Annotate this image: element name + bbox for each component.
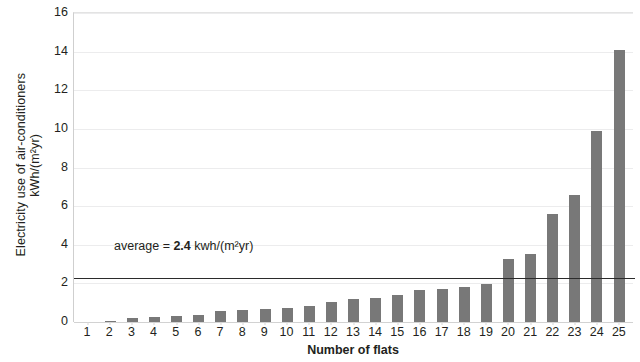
x-axis-tick-label: 7 (209, 326, 231, 344)
bar-slot (453, 13, 475, 322)
x-axis-tick-label: 20 (497, 326, 519, 344)
bar (437, 289, 448, 322)
x-axis-tick-label: 21 (519, 326, 541, 344)
bar (215, 311, 226, 322)
bar-slot (298, 13, 320, 322)
x-axis-tick-label: 15 (386, 326, 408, 344)
y-axis-tick-label: 4 (38, 238, 68, 251)
bar-slot (188, 13, 210, 322)
bar (392, 295, 403, 322)
bar-series (74, 13, 633, 322)
bar-slot (210, 13, 232, 322)
x-axis-tick-label: 8 (231, 326, 253, 344)
bar-slot (166, 13, 188, 322)
bar (503, 259, 514, 322)
bar (326, 302, 337, 322)
x-axis-tick-label: 6 (187, 326, 209, 344)
y-axis-tick-label: 14 (38, 44, 68, 57)
bar-slot (365, 13, 387, 322)
x-axis-tick-label: 11 (298, 326, 320, 344)
x-axis-tick-label: 13 (342, 326, 364, 344)
x-axis-tick-label: 4 (142, 326, 164, 344)
bar-slot (564, 13, 586, 322)
y-axis-tick-label: 8 (38, 160, 68, 173)
bar-slot (143, 13, 165, 322)
bar-slot (77, 13, 99, 322)
bar-slot (431, 13, 453, 322)
x-axis-tick-label: 23 (563, 326, 585, 344)
bar-slot (520, 13, 542, 322)
x-axis-tick-label: 9 (253, 326, 275, 344)
bar (569, 195, 580, 322)
x-axis-tick-label: 17 (431, 326, 453, 344)
plot-area: average = 2.4 kwh/(m²yr) (73, 12, 633, 322)
bar (370, 298, 381, 322)
y-axis-tick-label: 16 (38, 6, 68, 19)
bar-slot (409, 13, 431, 322)
bar (525, 254, 536, 322)
average-reference-line (74, 278, 635, 279)
y-axis-title-line1: Electricity use of air-conditioners (15, 73, 28, 256)
bar-slot (387, 13, 409, 322)
x-axis-tick-label: 16 (408, 326, 430, 344)
x-axis-tick-label: 3 (120, 326, 142, 344)
bar (237, 310, 248, 322)
bar (547, 214, 558, 322)
x-axis-tick-label: 25 (608, 326, 630, 344)
bar-slot (99, 13, 121, 322)
average-annotation-suffix: kwh/(m²yr) (191, 239, 254, 253)
y-axis-tick-label: 2 (38, 276, 68, 289)
bar (414, 290, 425, 322)
x-axis-tick-label: 12 (320, 326, 342, 344)
bar-slot (276, 13, 298, 322)
x-axis-tick-label: 5 (165, 326, 187, 344)
bar-slot (608, 13, 630, 322)
bar (304, 306, 315, 322)
bar-slot (586, 13, 608, 322)
x-axis-tick-label: 18 (453, 326, 475, 344)
y-axis-tick-labels: 0246810121416 (36, 0, 68, 362)
average-annotation-prefix: average = (114, 239, 173, 253)
bar-slot (475, 13, 497, 322)
x-axis-tick-label: 22 (541, 326, 563, 344)
bar (282, 308, 293, 322)
x-axis-tick-labels: 1234567891011121314151617181920212223242… (73, 326, 633, 344)
y-axis-tick-label: 0 (38, 315, 68, 328)
x-axis-tick-label: 1 (76, 326, 98, 344)
average-annotation-value: 2.4 (173, 239, 190, 253)
bar-slot (542, 13, 564, 322)
bar (614, 50, 625, 322)
bar (591, 131, 602, 322)
x-axis-tick-label: 2 (98, 326, 120, 344)
y-axis-tick-label: 12 (38, 83, 68, 96)
bar (348, 299, 359, 322)
average-annotation: average = 2.4 kwh/(m²yr) (114, 240, 253, 253)
bar-slot (497, 13, 519, 322)
y-axis-tick-label: 6 (38, 199, 68, 212)
bar-slot (343, 13, 365, 322)
bar (459, 287, 470, 322)
bar (193, 315, 204, 322)
chart-container: Electricity use of air-conditioners kWh/… (0, 0, 640, 362)
bar-slot (320, 13, 342, 322)
y-axis-tick-label: 10 (38, 122, 68, 135)
bar (481, 284, 492, 322)
x-axis-tick-label: 24 (586, 326, 608, 344)
x-axis-tick-label: 14 (364, 326, 386, 344)
bar-slot (232, 13, 254, 322)
x-axis-tick-label: 10 (275, 326, 297, 344)
x-axis-tick-label: 19 (475, 326, 497, 344)
bar-slot (121, 13, 143, 322)
bar (260, 309, 271, 322)
x-axis-title: Number of flats (73, 344, 633, 357)
bar-slot (254, 13, 276, 322)
